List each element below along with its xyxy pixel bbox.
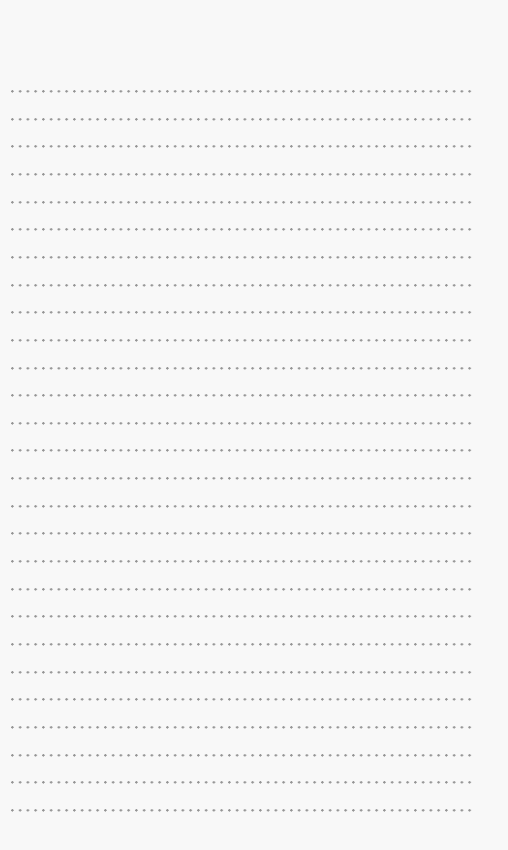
dotted-writing-line [11, 477, 475, 480]
dotted-writing-line [11, 671, 475, 674]
dotted-writing-line [11, 643, 475, 646]
dotted-writing-line [11, 615, 475, 618]
dotted-writing-line [11, 588, 475, 591]
dotted-writing-line [11, 726, 475, 729]
dotted-writing-line [11, 339, 475, 342]
dotted-writing-line [11, 228, 475, 231]
dotted-writing-line [11, 145, 475, 148]
dotted-writing-line [11, 449, 475, 452]
dotted-writing-line [11, 367, 475, 370]
dotted-writing-line [11, 201, 475, 204]
dotted-writing-line [11, 809, 475, 812]
dotted-writing-line [11, 394, 475, 397]
dotted-writing-line [11, 781, 475, 784]
dotted-writing-line [11, 560, 475, 563]
dotted-writing-line [11, 754, 475, 757]
dotted-writing-line [11, 422, 475, 425]
dotted-writing-line [11, 505, 475, 508]
dotted-writing-line [11, 532, 475, 535]
dotted-writing-line [11, 698, 475, 701]
dotted-writing-line [11, 118, 475, 121]
dotted-writing-line [11, 256, 475, 259]
dotted-notebook-page [0, 0, 508, 850]
dotted-writing-line [11, 90, 475, 93]
dotted-writing-line [11, 284, 475, 287]
dotted-writing-line [11, 311, 475, 314]
dotted-writing-line [11, 173, 475, 176]
